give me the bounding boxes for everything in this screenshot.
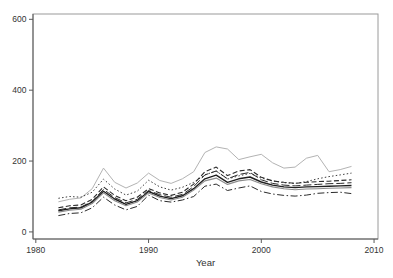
x-tick-label: 2000 — [252, 245, 271, 255]
x-tick-label: 2010 — [365, 245, 384, 255]
x-tick-label: 1980 — [26, 245, 45, 255]
x-tick-label: 1990 — [139, 245, 158, 255]
y-tick-label: 0 — [22, 227, 27, 237]
y-tick-label: 200 — [12, 156, 26, 166]
line-chart: 02004006001980199020002010Year — [0, 0, 393, 278]
y-tick-label: 400 — [12, 85, 26, 95]
chart-figure: 02004006001980199020002010Year — [0, 0, 393, 278]
x-axis-label: Year — [196, 257, 215, 268]
series-4-longdash — [58, 171, 351, 210]
y-tick-label: 600 — [12, 14, 26, 24]
